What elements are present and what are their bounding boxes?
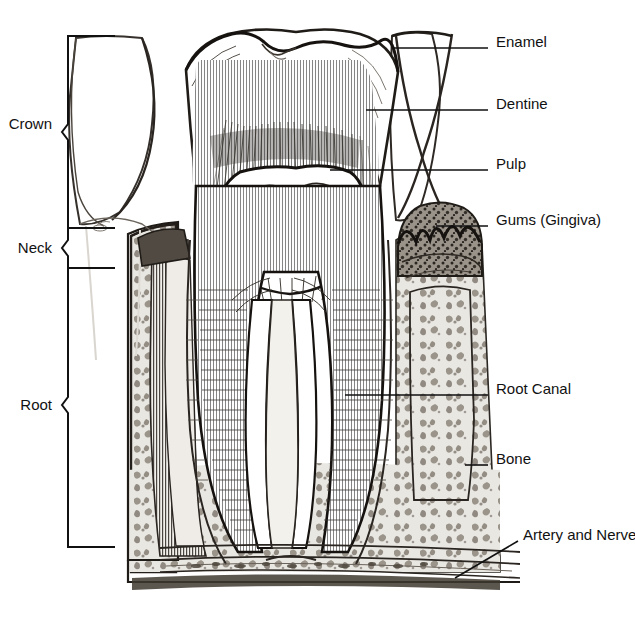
callout-label-pulp: Pulp [496,156,526,171]
callout-label-enamel: Enamel [496,34,547,49]
region-label-crown: Crown [0,116,52,131]
region-label-root: Root [0,397,52,412]
callout-label-artery-and-nerve: Artery and Nerve [523,527,635,542]
adjacent-tooth-right [390,32,452,220]
callout-label-dentine: Dentine [496,96,548,111]
callout-label-gums: Gums (Gingiva) [496,212,601,227]
callout-label-bone: Bone [496,451,531,466]
callout-label-root-canal: Root Canal [496,381,571,396]
bracket-root [62,268,115,547]
region-label-neck: Neck [0,240,52,255]
tooth-root [194,186,384,552]
tooth-anatomy-figure: Enamel Dentine Pulp Gums (Gingiva) Root … [0,0,635,622]
